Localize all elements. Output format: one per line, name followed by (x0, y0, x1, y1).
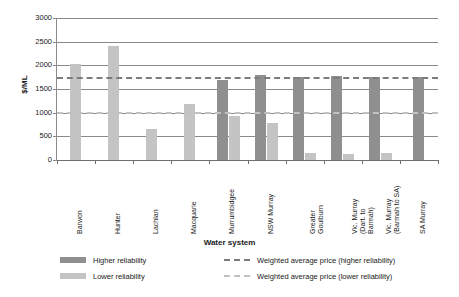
x-category-label: Macquarie (190, 168, 198, 234)
x-tick-mark (57, 160, 58, 164)
x-category-label: Murrumbidgee (228, 168, 236, 234)
chart-figure: $/ML 3000 2500 2000 1500 1000 500 0 Barw… (0, 0, 459, 297)
legend-row: Lower reliability Weighted average price… (60, 269, 420, 283)
x-category-label: Barwon (76, 168, 84, 234)
y-tick-mark (53, 42, 57, 43)
reference-line-weighted-average-lower (57, 112, 438, 114)
legend-label-higher-reliability: Higher reliability (93, 256, 146, 265)
bar-lower-reliability (108, 46, 119, 160)
legend-label-weighted-average-higher: Weighted average price (higher reliabili… (257, 256, 395, 265)
legend-swatch-lower-reliability (60, 273, 86, 279)
legend-item-higher-reliability: Higher reliability (60, 253, 146, 267)
gridline (57, 42, 438, 43)
reference-line-weighted-average-higher (57, 77, 438, 79)
x-tick-mark (286, 160, 287, 164)
y-tick-label: 2500 (35, 38, 52, 46)
x-tick-mark (248, 160, 249, 164)
y-tick-mark (53, 65, 57, 66)
x-tick-mark (209, 160, 210, 164)
bar-lower-reliability (267, 123, 278, 160)
x-category-label: Greater Goulburn (309, 168, 325, 234)
x-category-label: Hunter (114, 168, 122, 234)
legend-label-weighted-average-lower: Weighted average price (lower reliabilit… (257, 272, 392, 281)
legend-item-lower-reliability: Lower reliability (60, 269, 145, 283)
x-tick-mark (133, 160, 134, 164)
x-category-label: NSW Murray (267, 168, 275, 234)
legend-dash-higher-reliability-icon (224, 259, 250, 261)
x-tick-mark (400, 160, 401, 164)
legend-dash-lower-reliability-icon (224, 275, 250, 277)
x-category-label: Lachlan (152, 168, 160, 234)
x-tick-mark (362, 160, 363, 164)
plot-area (57, 18, 438, 160)
legend-item-weighted-average-higher: Weighted average price (higher reliabili… (224, 253, 395, 267)
bar-higher-reliability (255, 75, 266, 160)
x-tick-mark (95, 160, 96, 164)
bar-lower-reliability (146, 129, 157, 160)
y-tick-label: 1500 (35, 85, 52, 93)
legend-row: Higher reliability Weighted average pric… (60, 253, 420, 267)
bar-higher-reliability (413, 77, 424, 160)
chart-legend: Higher reliability Weighted average pric… (60, 253, 420, 287)
x-tick-mark (171, 160, 172, 164)
bar-higher-reliability (331, 76, 342, 160)
bar-lower-reliability (305, 153, 316, 160)
bar-lower-reliability (381, 153, 392, 160)
x-tick-mark (324, 160, 325, 164)
legend-swatch-higher-reliability (60, 257, 86, 263)
y-axis-tick-labels: 3000 2500 2000 1500 1000 500 0 (20, 18, 52, 160)
legend-label-lower-reliability: Lower reliability (93, 272, 145, 281)
y-tick-mark (53, 136, 57, 137)
x-axis-title: Water system (0, 238, 459, 247)
y-tick-mark (53, 18, 57, 19)
y-tick-label: 3000 (35, 14, 52, 22)
x-category-label: Vic. Murray (Barmah to SA) (385, 168, 401, 234)
x-category-label: SA Murray (419, 168, 427, 234)
bar-lower-reliability (229, 116, 240, 160)
bar-higher-reliability (293, 77, 304, 160)
y-tick-mark (53, 89, 57, 90)
y-tick-label: 2000 (35, 62, 52, 70)
y-tick-label: 0 (48, 156, 52, 164)
x-category-label: Vic. Murray (Dart. to Barmah) (351, 168, 376, 234)
bar-higher-reliability (369, 77, 380, 160)
y-tick-label: 1000 (35, 109, 52, 117)
legend-item-weighted-average-lower: Weighted average price (lower reliabilit… (224, 269, 392, 283)
x-tick-mark (438, 160, 439, 164)
y-tick-label: 500 (39, 133, 52, 141)
gridline (57, 18, 438, 19)
bar-higher-reliability (217, 80, 228, 160)
